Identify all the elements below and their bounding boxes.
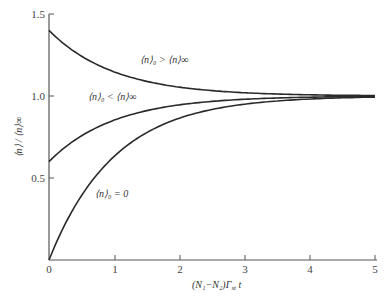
curve-middle	[49, 96, 375, 161]
x-axis-title: (N₁−N₂)Γst t	[192, 279, 242, 292]
curve-lower	[49, 97, 375, 260]
curve-label-lower: ⟨n⟩₀ = 0	[95, 188, 128, 199]
x-tick-label: 1	[112, 263, 118, 275]
x-tick-label: 0	[46, 263, 52, 275]
x-tick-label: 2	[177, 263, 183, 275]
curve-upper	[49, 30, 375, 95]
chart: 1.5 1.0 0.5 0 1 2 3 4 5 ⟨n⟩₀ > ⟨n⟩∞ ⟨n⟩₀…	[0, 0, 389, 300]
curve-label-upper: ⟨n⟩₀ > ⟨n⟩∞	[140, 54, 188, 65]
y-axis-title: ⟨n⟩ / ⟨n⟩∞	[13, 117, 24, 158]
y-ticks: 1.5 1.0 0.5	[31, 8, 54, 184]
y-tick-label: 0.5	[31, 172, 45, 184]
y-tick-label: 1.5	[31, 8, 45, 20]
x-tick-label: 3	[242, 263, 248, 275]
x-ticks: 0 1 2 3 4 5	[46, 255, 378, 275]
curve-label-middle: ⟨n⟩₀ < ⟨n⟩∞	[88, 91, 136, 102]
x-tick-label: 4	[307, 263, 313, 275]
y-tick-label: 1.0	[31, 90, 45, 102]
x-tick-label: 5	[372, 263, 378, 275]
